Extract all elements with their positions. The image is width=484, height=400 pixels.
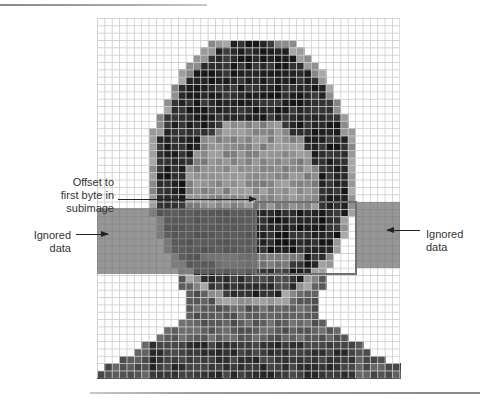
ignored-right-line-2: data xyxy=(426,241,482,254)
ignored-left-arrow xyxy=(76,234,108,235)
offset-label-line-2: first byte in xyxy=(20,189,114,202)
ignored-data-right-band xyxy=(356,202,400,268)
offset-label-line-1: Offset to xyxy=(20,176,114,189)
ignored-data-right-label: Ignored data xyxy=(426,228,482,254)
offset-label: Offset to first byte in subimage xyxy=(20,176,114,215)
ignored-left-line-2: data xyxy=(20,242,71,255)
ignored-data-left-label: Ignored data xyxy=(20,229,71,255)
top-rule xyxy=(0,4,207,6)
ignored-left-line-1: Ignored xyxy=(20,229,71,242)
bottom-rule xyxy=(90,392,480,394)
ignored-right-arrow xyxy=(387,230,420,231)
ignored-data-left-band xyxy=(97,208,255,274)
subimage-rectangle xyxy=(255,201,357,275)
offset-label-line-3: subimage xyxy=(20,202,114,215)
offset-arrow xyxy=(118,199,256,200)
ignored-right-line-1: Ignored xyxy=(426,228,482,241)
